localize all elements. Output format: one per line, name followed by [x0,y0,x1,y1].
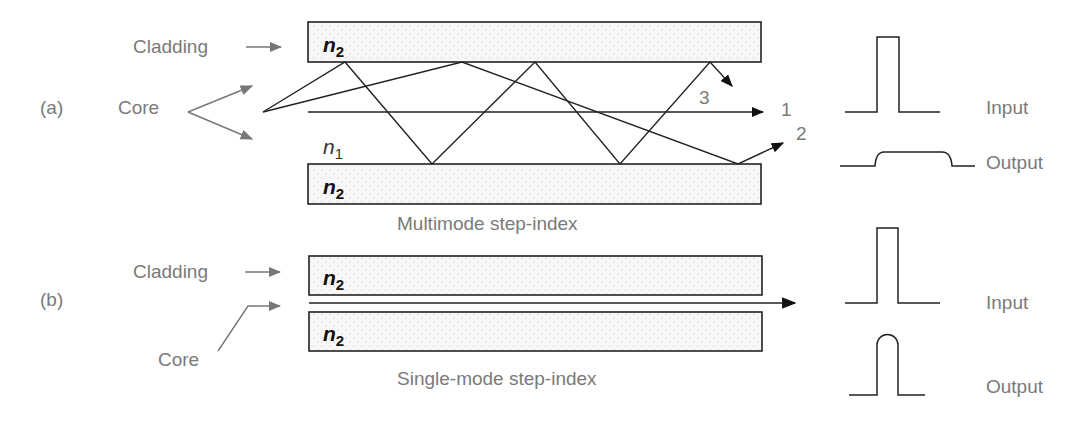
panel-a-tag: (a) [40,98,63,117]
core-label-a: Core [118,98,159,117]
cladding-index-bottom-a: n2 [323,176,344,201]
cladding-label-a: Cladding [133,37,208,56]
cladding-index-top-a: n2 [323,34,344,59]
cladding-top-b [309,256,762,295]
input-pulse-b [845,228,940,303]
ray-label-2: 2 [796,124,807,143]
input-label-a: Input [986,98,1028,117]
single-mode-caption: Single-mode step-index [397,369,597,388]
input-pulse-a [845,37,940,112]
input-label-b: Input [986,293,1028,312]
output-pulse-a [840,152,975,166]
cladding-index-bottom-b: n2 [323,323,344,348]
multimode-caption: Multimode step-index [397,214,578,233]
multimode-fiber [188,22,975,204]
output-pulse-b [849,335,925,396]
cladding-top-a [308,22,761,62]
cladding-index-top-b: n2 [323,267,344,292]
core-leader-arrow-b [218,306,280,351]
ray-label-3: 3 [699,88,710,107]
panel-b-tag: (b) [40,290,63,309]
core-index-a: n1 [323,136,343,161]
cladding-bottom-b [309,312,762,351]
cladding-bottom-a [308,164,761,204]
output-label-a: Output [986,153,1043,172]
core-label-b: Core [158,350,199,369]
core-leader-arrow-down-a [188,112,252,139]
core-leader-arrow-up-a [188,86,252,112]
output-label-b: Output [986,377,1043,396]
ray-label-1: 1 [781,100,792,119]
cladding-label-b: Cladding [133,262,208,281]
